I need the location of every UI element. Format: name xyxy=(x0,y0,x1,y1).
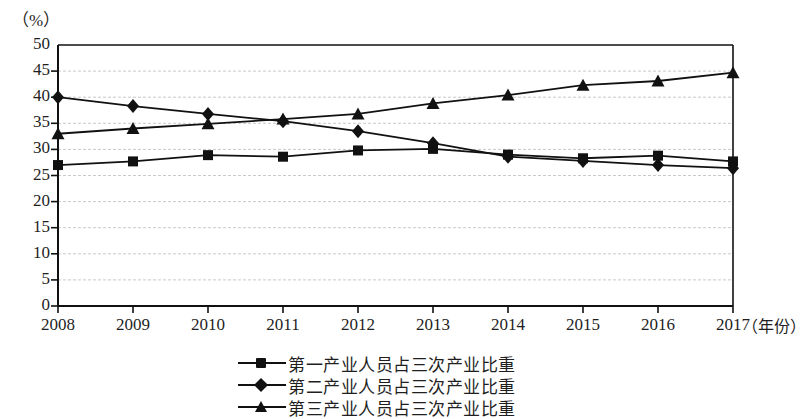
legend-label-tertiary-industry: 第三产业人员占三次产业比重 xyxy=(288,395,516,419)
chart-legend: 第一产业人员占三次产业比重 第二产业人员占三次产业比重 第三产业人员占三次产业比… xyxy=(236,352,566,418)
data-point-square xyxy=(353,145,363,155)
x-tick-label: 2010 xyxy=(173,315,243,335)
y-tick-label: 30 xyxy=(8,138,50,158)
data-point-square xyxy=(203,150,213,160)
legend-triangle-marker-icon xyxy=(236,399,288,415)
data-point-diamond xyxy=(52,90,64,104)
data-point-square xyxy=(278,152,288,162)
series-1 xyxy=(53,144,738,170)
data-point-diamond xyxy=(127,99,139,113)
legend-diamond-marker-icon xyxy=(236,377,288,393)
y-tick-label: 5 xyxy=(8,269,50,289)
y-tick-label: 25 xyxy=(8,165,50,185)
y-tick-label: 45 xyxy=(8,60,50,80)
data-point-square xyxy=(53,160,63,170)
y-tick-label: 10 xyxy=(8,243,50,263)
x-tick-label: 2008 xyxy=(23,315,93,335)
y-tick-label: 0 xyxy=(8,295,50,315)
legend-item-primary-industry: 第一产业人员占三次产业比重 xyxy=(236,352,566,374)
y-tick-label: 20 xyxy=(8,191,50,211)
x-tick-label: 2009 xyxy=(98,315,168,335)
series-2 xyxy=(52,90,739,175)
y-tick-label: 35 xyxy=(8,112,50,132)
x-tick-label: 2017 xyxy=(698,315,768,335)
x-tick-label: 2013 xyxy=(398,315,468,335)
grid-lines xyxy=(58,71,733,280)
data-point-triangle xyxy=(727,66,740,78)
x-tick-label: 2016 xyxy=(623,315,693,335)
data-point-diamond xyxy=(352,124,364,138)
legend-square-marker-icon xyxy=(236,355,288,371)
y-tick-label: 50 xyxy=(8,34,50,54)
x-tick-label: 2011 xyxy=(248,315,318,335)
y-tick-label: 15 xyxy=(8,217,50,237)
y-tick-label: 40 xyxy=(8,86,50,106)
legend-item-secondary-industry: 第二产业人员占三次产业比重 xyxy=(236,374,566,396)
data-point-square xyxy=(128,156,138,166)
x-tick-label: 2012 xyxy=(323,315,393,335)
legend-item-tertiary-industry: 第三产业人员占三次产业比重 xyxy=(236,396,566,418)
x-tick-label: 2014 xyxy=(473,315,543,335)
data-series-layer xyxy=(52,66,740,175)
x-tick-label: 2015 xyxy=(548,315,618,335)
series-3 xyxy=(52,66,740,139)
